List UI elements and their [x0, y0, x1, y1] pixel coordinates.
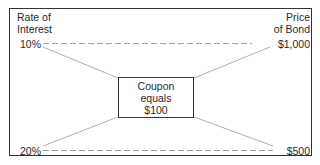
- left-title-line-2: Interest: [17, 23, 52, 35]
- right-axis-title: Price of Bond: [274, 11, 310, 35]
- line-box-to-1000: [194, 47, 270, 78]
- rate-20-label: 20%: [20, 145, 41, 157]
- line-box-to-500: [194, 117, 273, 146]
- coupon-line-1: Coupon: [138, 80, 175, 92]
- price-500-label: $500: [287, 145, 310, 157]
- line-20pct-to-box: [43, 117, 118, 146]
- right-title-line-1: Price: [274, 11, 310, 23]
- price-1000-label: $1,000: [278, 38, 310, 50]
- left-axis-title: Rate of Interest: [17, 11, 52, 35]
- coupon-line-2: equals: [141, 92, 172, 104]
- right-title-line-2: of Bond: [274, 23, 310, 35]
- coupon-box: Coupon equals $100: [118, 77, 194, 118]
- rate-10-label: 10%: [20, 38, 41, 50]
- left-title-line-1: Rate of: [17, 11, 52, 23]
- line-10pct-to-box: [43, 47, 118, 78]
- coupon-line-3: $100: [144, 104, 167, 116]
